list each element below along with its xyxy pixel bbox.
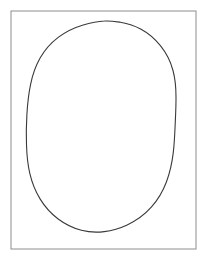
figure-canvas — [0, 0, 207, 264]
ellipse-shape — [26, 21, 176, 232]
figure-svg — [0, 0, 207, 264]
border-rectangle — [11, 11, 196, 249]
